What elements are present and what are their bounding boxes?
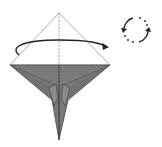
origami-diagram: turn model over bbox=[0, 0, 162, 147]
upper-white-flap bbox=[10, 13, 110, 65]
rotate-symbol-icon bbox=[121, 17, 151, 43]
